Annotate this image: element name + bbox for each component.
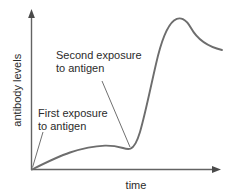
antibody-level-curve [32,18,222,169]
chart-canvas [0,0,245,196]
x-axis [31,166,221,173]
y-axis-arrowhead [28,9,35,18]
first-exposure-leader-line [33,132,44,168]
second-exposure-annotation: Second exposure to antigen [56,49,142,74]
first-exposure-annotation: First exposure to antigen [38,107,108,132]
x-axis-arrowhead [212,166,221,173]
antibody-response-chart: antibody levels time Second exposure to … [0,0,245,196]
y-axis [28,9,35,170]
x-axis-label: time [106,179,166,192]
y-axis-label: antibody levels [11,44,24,136]
